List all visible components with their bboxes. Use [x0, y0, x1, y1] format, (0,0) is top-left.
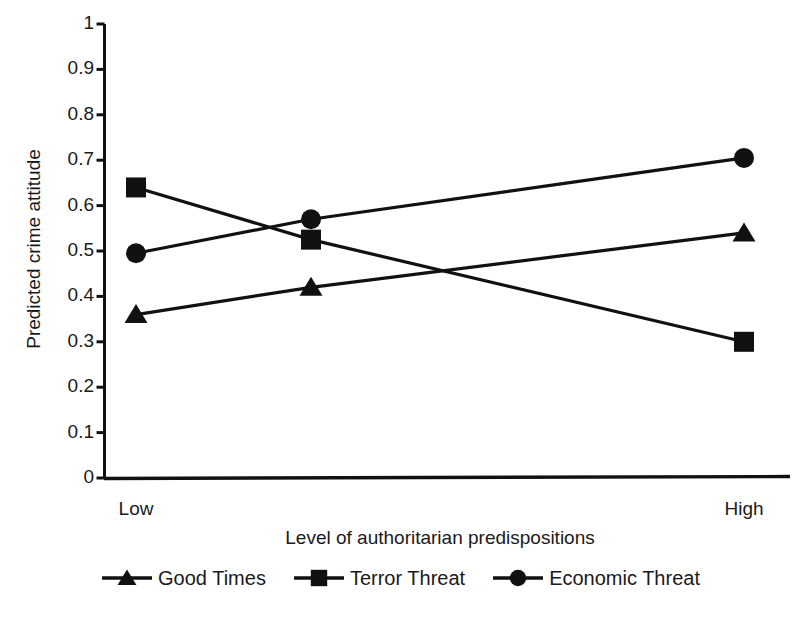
axis-lines — [104, 24, 790, 479]
series-line — [136, 158, 744, 253]
series-terror-threat — [126, 177, 754, 351]
circle-marker-icon — [126, 243, 146, 263]
circle-marker-icon — [491, 565, 545, 591]
data-series-layer — [125, 148, 756, 352]
x-axis-line — [104, 477, 790, 479]
square-marker-icon — [734, 332, 754, 352]
plot-area — [0, 0, 800, 619]
legend-item-terror-threat[interactable]: Terror Threat — [292, 565, 465, 591]
circle-marker-icon — [734, 148, 754, 168]
circle-marker-icon — [301, 209, 321, 229]
series-economic-threat — [126, 148, 754, 263]
legend-label: Economic Threat — [549, 567, 700, 590]
legend-label: Good Times — [158, 567, 266, 590]
square-marker-icon — [301, 230, 321, 250]
triangle-marker-icon — [100, 565, 154, 591]
chart-legend: Good TimesTerror ThreatEconomic Threat — [0, 565, 800, 591]
square-marker-icon — [126, 177, 146, 197]
legend-item-economic-threat[interactable]: Economic Threat — [491, 565, 700, 591]
series-line — [136, 233, 744, 315]
square-marker-icon — [311, 570, 327, 586]
legend-label: Terror Threat — [350, 567, 465, 590]
square-marker-icon — [292, 565, 346, 591]
triangle-marker-icon — [733, 222, 756, 241]
series-line — [136, 187, 744, 341]
line-chart-figure: Predicted crime attitude Level of author… — [0, 0, 800, 619]
legend-item-good-times[interactable]: Good Times — [100, 565, 266, 591]
circle-marker-icon — [510, 570, 526, 586]
